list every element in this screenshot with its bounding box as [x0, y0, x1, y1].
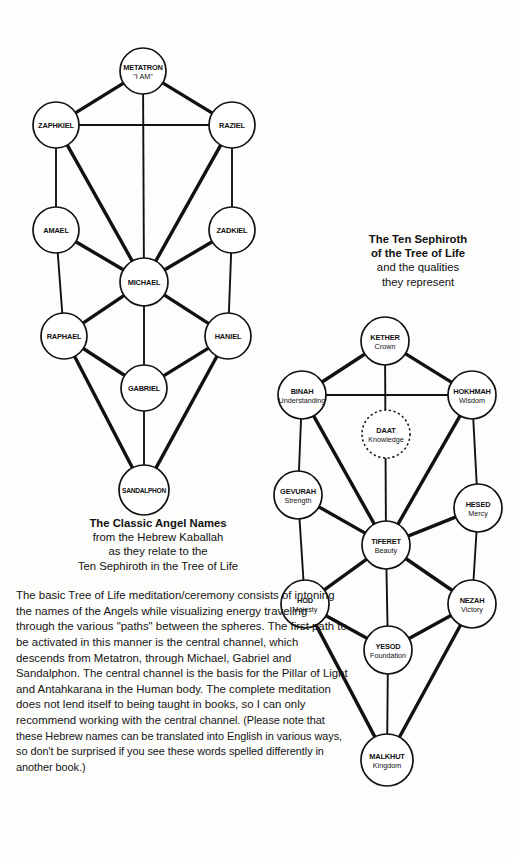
sephiroth-edge-tiferet-nezah: [405, 558, 453, 591]
angel-node-haniel[interactable]: HANIEL: [205, 313, 251, 359]
page-canvas: METATRON"I AM"ZAPHKIELRAZIELAMAELZADKIEL…: [0, 0, 518, 857]
angel-edge-zadkiel-michael: [164, 241, 213, 270]
angel-edge-raziel-michael: [155, 144, 221, 262]
angel-node-raziel[interactable]: RAZIEL: [209, 102, 255, 148]
angel-node-zadkiel[interactable]: ZADKIEL: [209, 207, 255, 253]
angel-edge-metatron-zaphkiel: [75, 83, 125, 114]
sephiroth-edge-nezah-yesod: [408, 615, 452, 639]
sephiroth-node-gevurah[interactable]: GEVURAHStrength: [274, 471, 322, 519]
angel-node-name-gabriel: GABRIEL: [128, 384, 161, 393]
angel-caption-line-4: Ten Sephiroth in the Tree of Life: [18, 559, 298, 573]
sephiroth-node-hesed[interactable]: HESEDMercy: [454, 484, 502, 532]
sephiroth-edge-binah-gevurah: [299, 418, 301, 472]
angel-edge-zaphkiel-michael: [67, 144, 133, 262]
angel-node-name-raphael: RAPHAEL: [47, 332, 82, 341]
angel-edge-amael-michael: [75, 241, 124, 270]
body-paragraph-part-1: The basic Tree of Life meditation/ceremo…: [16, 589, 348, 726]
angel-node-name-haniel: HANIEL: [215, 332, 242, 341]
angel-node-zaphkiel[interactable]: ZAPHKIEL: [33, 102, 79, 148]
sephiroth-node-binah[interactable]: BINAHUnderstanding: [278, 371, 326, 419]
angel-edge-haniel-sandalphon: [155, 355, 217, 469]
angel-caption-line-1: The Classic Angel Names: [18, 516, 298, 530]
sephiroth-edge-yesod-malkhut: [387, 673, 388, 735]
angel-edge-haniel-gabriel: [163, 348, 210, 377]
sephiroth-node-sub-kether: Crown: [375, 342, 396, 351]
angel-node-raphael[interactable]: RAPHAEL: [41, 313, 87, 359]
sephiroth-edge-hesed-tiferet: [407, 517, 456, 537]
sephiroth-edge-gevurah-hod: [299, 518, 303, 581]
angel-node-name-sandalphon: SANDALPHON: [122, 487, 167, 494]
angel-node-name-amael: AMAEL: [43, 226, 69, 235]
angel-edge-metatron-michael: [143, 93, 144, 259]
angel-node-name-zadkiel: ZADKIEL: [217, 226, 249, 235]
angel-node-name-michael: MICHAEL: [128, 278, 161, 287]
angel-edge-raphael-gabriel: [82, 348, 125, 376]
sephiroth-node-hokhmah[interactable]: HOKHMAHWisdom: [448, 371, 496, 419]
sephiroth-caption-line-4: they represent: [330, 275, 506, 289]
angel-node-amael[interactable]: AMAEL: [33, 207, 79, 253]
sephiroth-node-daat[interactable]: DAATKnowledge: [362, 410, 410, 458]
angel-caption: The Classic Angel Names from the Hebrew …: [18, 516, 298, 573]
angel-caption-line-3: as they relate to the: [18, 544, 298, 558]
angel-node-name-zaphkiel: ZAPHKIEL: [38, 121, 74, 130]
sephiroth-node-sub-nezah: Victory: [461, 605, 483, 614]
sephiroth-node-nezah[interactable]: NEZAHVictory: [448, 580, 496, 628]
sephiroth-edge-kether-hokhmah: [405, 353, 453, 383]
angel-edge-michael-raphael: [82, 295, 125, 324]
sephiroth-caption: The Ten Sephiroth of the Tree of Life an…: [330, 232, 506, 289]
sephiroth-caption-line-2: of the Tree of Life: [330, 246, 506, 260]
sephiroth-node-sub-binah: Understanding: [279, 396, 326, 405]
sephiroth-node-sub-gevurah: Strength: [284, 496, 311, 505]
sephiroth-node-sub-yesod: Foundation: [370, 651, 406, 660]
angel-caption-line-2: from the Hebrew Kaballah: [18, 530, 298, 544]
body-paragraph: The basic Tree of Life meditation/ceremo…: [16, 588, 348, 776]
angel-node-michael[interactable]: MICHAEL: [120, 258, 168, 306]
sephiroth-node-yesod[interactable]: YESODFoundation: [364, 626, 412, 674]
sephiroth-node-sub-malkhut: Kingdom: [373, 761, 401, 770]
sephiroth-edge-hesed-nezah: [473, 531, 476, 581]
angel-node-name-raziel: RAZIEL: [219, 121, 245, 130]
angel-node-gabriel[interactable]: GABRIEL: [121, 365, 167, 411]
sephiroth-node-kether[interactable]: KETHERCrown: [361, 317, 409, 365]
sephiroth-node-sub-daat: Knowledge: [368, 435, 404, 444]
sephiroth-edge-hokhmah-hesed: [473, 418, 477, 485]
sephiroth-edge-tiferet-hod: [324, 559, 368, 591]
angel-edge-raphael-sandalphon: [74, 356, 133, 469]
sephiroth-node-tiferet[interactable]: TIFERETBeauty: [362, 521, 410, 569]
sephiroth-edge-kether-binah: [321, 354, 365, 383]
angel-node-metatron[interactable]: METATRON"I AM": [120, 48, 166, 94]
sephiroth-node-malkhut[interactable]: MALKHUTKingdom: [361, 734, 413, 786]
angel-edge-zadkiel-haniel: [229, 252, 231, 314]
sephiroth-caption-line-1: The Ten Sephiroth: [330, 232, 506, 246]
angel-edge-metatron-raziel: [162, 82, 213, 113]
angel-node-sub-metatron: "I AM": [133, 72, 153, 81]
sephiroth-edge-gevurah-tiferet: [318, 506, 366, 533]
sephiroth-node-sub-tiferet: Beauty: [375, 546, 398, 555]
angel-edge-michael-haniel: [163, 294, 209, 324]
sephiroth-node-sub-hokhmah: Wisdom: [459, 396, 485, 405]
sephiroth-caption-line-3: and the qualities: [330, 260, 506, 274]
angel-edge-amael-raphael: [58, 252, 63, 314]
sephiroth-node-sub-hesed: Mercy: [468, 509, 488, 518]
sephiroth-edge-tiferet-yesod: [386, 568, 387, 627]
angel-node-sandalphon[interactable]: SANDALPHON: [119, 465, 169, 515]
